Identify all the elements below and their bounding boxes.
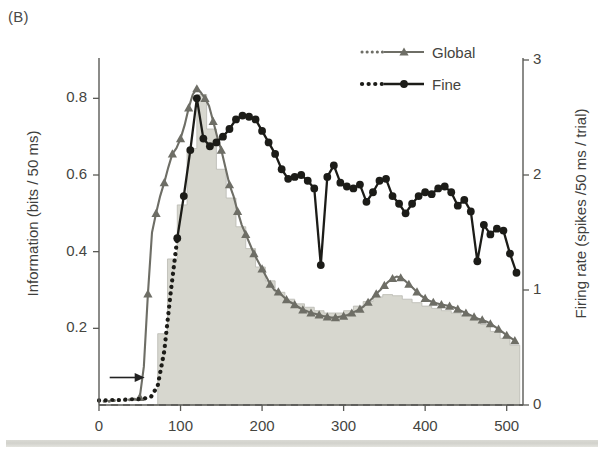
data-point-marker (395, 200, 403, 208)
data-point-marker (415, 192, 423, 200)
data-point-marker (513, 269, 521, 277)
data-point-marker (186, 146, 194, 154)
data-point-marker (486, 319, 495, 327)
data-point-marker (402, 209, 410, 217)
data-point-marker (151, 209, 160, 217)
data-point-marker (441, 183, 449, 191)
data-point-marker (460, 196, 468, 204)
data-point-marker (239, 112, 247, 120)
figure-panel-b: (B) Information (bits / 50 ms) Firing ra… (0, 0, 603, 458)
data-point-marker (310, 185, 318, 193)
data-point-marker (336, 179, 344, 187)
data-point-marker (143, 289, 152, 297)
chart-canvas (0, 0, 603, 458)
data-point-marker (506, 250, 514, 258)
data-point-marker (363, 198, 371, 206)
data-point-marker (304, 177, 312, 185)
data-point-marker (350, 185, 358, 193)
data-point-marker (454, 202, 462, 210)
data-point-marker (160, 178, 169, 186)
data-point-marker (184, 103, 193, 111)
data-point-marker (389, 192, 397, 200)
data-point-marker (265, 139, 273, 147)
data-point-marker (400, 80, 408, 88)
data-point-marker (193, 94, 201, 102)
data-point-marker (192, 84, 201, 92)
data-point-marker (258, 127, 266, 135)
data-point-marker (486, 231, 494, 239)
data-point-marker (447, 188, 455, 196)
data-point-marker (500, 227, 508, 235)
data-point-marker (176, 134, 185, 142)
data-point-marker (199, 135, 207, 143)
data-point-marker (467, 208, 475, 216)
data-point-marker (408, 200, 416, 208)
data-point-marker (217, 145, 226, 153)
data-point-marker (356, 181, 364, 189)
data-point-marker (369, 188, 377, 196)
data-point-marker (278, 165, 286, 173)
data-point-marker (297, 171, 305, 179)
data-point-marker (330, 162, 338, 170)
data-point-marker (382, 175, 390, 183)
data-point-marker (180, 192, 188, 200)
data-point-marker (323, 173, 331, 181)
data-point-marker (252, 116, 260, 124)
data-point-marker (232, 116, 240, 124)
page-edge-band (6, 440, 598, 447)
data-point-marker (428, 190, 436, 198)
data-point-marker (480, 221, 488, 229)
legend-marker-fine (400, 80, 408, 88)
data-point-marker (173, 234, 181, 242)
data-point-marker (209, 117, 218, 125)
data-point-marker (219, 133, 227, 141)
data-point-marker (271, 150, 279, 158)
data-point-marker (473, 257, 481, 265)
data-point-marker (206, 142, 214, 150)
data-point-marker (317, 261, 325, 269)
data-point-marker (213, 139, 221, 147)
data-point-marker (226, 125, 234, 133)
